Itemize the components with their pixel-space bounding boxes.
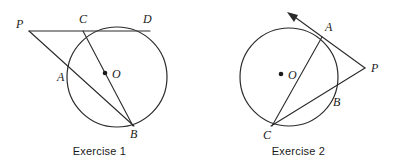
- point-label-d-1: D: [142, 12, 152, 26]
- point-label-c-1: C: [79, 12, 88, 26]
- center-label-o-1: O: [112, 67, 121, 81]
- center-label-o-2: O: [288, 68, 297, 82]
- caption-exercise-1: Exercise 1: [0, 144, 199, 158]
- point-label-b-1: B: [130, 127, 138, 140]
- chord-line-c-b: [83, 31, 133, 126]
- center-dot-o-2: [279, 72, 284, 77]
- point-label-a-2: A: [324, 20, 333, 34]
- point-label-c-2: C: [263, 128, 272, 140]
- point-label-p-1: P: [15, 17, 24, 31]
- point-label-b-2: B: [333, 95, 341, 109]
- arrow-head-icon: [287, 12, 298, 22]
- geometry-exercises-figure: P C D A B O Exercise 1 P A B C: [0, 0, 398, 166]
- chord-line-a-c: [272, 37, 322, 126]
- point-label-a-1: A: [56, 70, 65, 84]
- exercise-1-drawing: P C D A B O: [0, 0, 199, 140]
- figure-exercise-2: P A B C O Exercise 2: [199, 0, 398, 166]
- exercise-2-drawing: P A B C O: [199, 0, 398, 140]
- center-dot-o-1: [103, 71, 108, 76]
- point-label-p-2: P: [370, 61, 379, 75]
- figure-exercise-1: P C D A B O Exercise 1: [0, 0, 199, 166]
- secant-line-p-b-c: [271, 68, 365, 126]
- caption-exercise-2: Exercise 2: [199, 144, 398, 158]
